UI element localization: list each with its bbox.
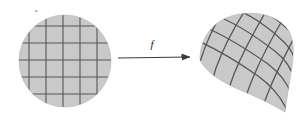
mapping-label-f: f <box>150 38 155 50</box>
scan-speck <box>35 10 38 12</box>
mapping-arrow-line <box>118 57 190 58</box>
source-disk-group <box>14 10 116 114</box>
mapping-arrow-group: f <box>118 38 190 58</box>
math-figure-mapping-disk-to-blob: f <box>0 0 306 124</box>
figure-canvas: f <box>0 0 306 124</box>
target-blob-group <box>193 6 303 120</box>
